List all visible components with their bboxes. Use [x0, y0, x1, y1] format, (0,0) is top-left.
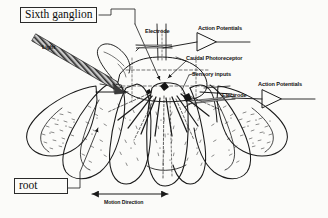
light-beam-arrow-icon — [32, 34, 126, 94]
caudal-photoreceptor-label: Caudal Photoreceptor — [186, 56, 242, 62]
amplifier-triangle-icon-right — [262, 90, 315, 108]
amplifier-triangle-icon-top — [197, 33, 250, 51]
figure-canvas: Sixth ganglion root Light Electrode Acti… — [0, 0, 328, 218]
light-label: Light — [42, 45, 55, 51]
action-potentials-top-label: Action Potentials — [198, 26, 242, 32]
sixth-ganglion-label-box: Sixth ganglion — [20, 7, 97, 23]
motion-direction-label: Motion Direction — [104, 200, 143, 205]
sensory-inputs-label: Sensory inputs — [192, 72, 231, 78]
root-label-box: root — [14, 178, 68, 194]
electrode-top-label: Electrode — [145, 29, 170, 35]
electrode-right-label: Electrode — [222, 93, 247, 99]
action-potentials-right-label: Action Potentials — [258, 82, 302, 88]
